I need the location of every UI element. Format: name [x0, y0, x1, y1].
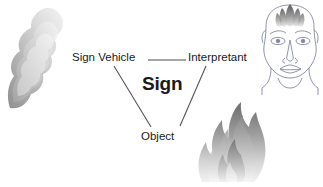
node-label-sign-vehicle: Sign Vehicle [72, 52, 135, 64]
center-label-sign: Sign [142, 74, 182, 93]
semiotic-triangle-diagram: Sign Vehicle Interpretant Sign Object [0, 0, 323, 187]
forehead-flame-hair [276, 4, 305, 27]
node-label-object: Object [141, 131, 174, 143]
human-face-illustration [258, 0, 323, 95]
node-label-interpretant: Interpretant [188, 52, 247, 64]
flame-illustration [194, 98, 272, 184]
flame-body [199, 102, 266, 182]
